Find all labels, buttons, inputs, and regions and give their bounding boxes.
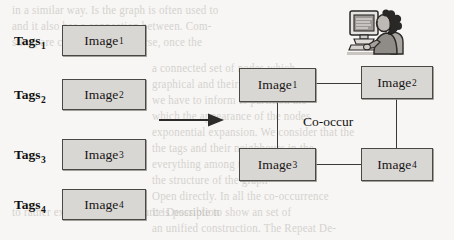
- graph-node-label: Image: [258, 157, 292, 173]
- tag-label-1: Tags1: [14, 33, 46, 51]
- graph-node-label: Image: [377, 75, 411, 91]
- tag-label-4: Tags4: [14, 197, 46, 215]
- ghost-line: It is possible to show an set of: [152, 206, 291, 219]
- graph-node-subscript: 3: [292, 160, 297, 170]
- tag-label-text: Tags: [14, 147, 41, 162]
- graph-node-subscript: 2: [412, 78, 417, 88]
- image-box-label: Image: [84, 147, 118, 163]
- tag-label-subscript: 1: [41, 41, 46, 51]
- graph-node-label: Image: [258, 77, 292, 93]
- tag-label-text: Tags: [14, 33, 41, 48]
- tag-label-3: Tags3: [14, 147, 46, 165]
- ghost-line: Open directly. In all the co-occurrence: [152, 190, 329, 203]
- ghost-line: an unified construction. The Repeat De-: [152, 222, 336, 235]
- ghost-line: graphical and their: [152, 78, 238, 91]
- image-box-subscript: 2: [119, 90, 124, 100]
- image-box-4[interactable]: Image4: [62, 189, 146, 220]
- image-box-label: Image: [84, 87, 118, 103]
- tag-label-text: Tags: [14, 197, 41, 212]
- right-arrow-icon: [158, 110, 226, 134]
- figure-root: in a similar way. Is the graph is often …: [0, 0, 454, 240]
- graph-node-subscript: 4: [412, 160, 417, 170]
- tag-label-text: Tags: [14, 87, 41, 102]
- graph-node-image-3[interactable]: Image3: [239, 148, 316, 181]
- image-box-3[interactable]: Image3: [62, 139, 146, 170]
- tag-label-subscript: 4: [41, 205, 46, 215]
- image-box-subscript: 4: [119, 200, 124, 210]
- edge-n2-n4: [396, 98, 397, 150]
- edge-n3-n4: [315, 164, 362, 165]
- graph-node-label: Image: [377, 157, 411, 173]
- cooccur-label: Co-occur: [303, 114, 353, 130]
- graph-node-image-4[interactable]: Image4: [361, 148, 433, 181]
- graph-node-image-2[interactable]: Image2: [361, 66, 433, 99]
- graph-node-subscript: 1: [292, 80, 297, 90]
- image-box-subscript: 3: [119, 150, 124, 160]
- tag-label-2: Tags2: [14, 87, 46, 105]
- edge-n1-n2: [315, 83, 362, 84]
- image-box-2[interactable]: Image2: [62, 79, 146, 110]
- tag-label-subscript: 3: [41, 155, 46, 165]
- person-at-computer-icon: [341, 2, 409, 64]
- tag-label-subscript: 2: [41, 95, 46, 105]
- image-box-subscript: 1: [119, 36, 124, 46]
- image-box-label: Image: [84, 197, 118, 213]
- image-box-label: Image: [84, 33, 118, 49]
- graph-node-image-1[interactable]: Image1: [239, 68, 316, 102]
- edge-n1-n3: [277, 101, 278, 150]
- image-box-1[interactable]: Image1: [62, 25, 146, 56]
